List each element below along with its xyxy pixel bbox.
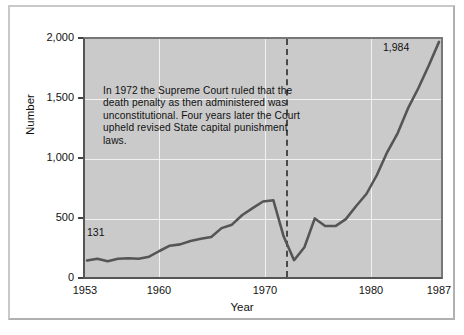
chart-frame: 131 1,984 In 1972 the Supreme Court rule… xyxy=(8,5,455,320)
y-tick-label-500: 500 xyxy=(30,212,74,223)
y-tick-mark-1500 xyxy=(78,97,83,99)
y-tick-label-1000: 1,000 xyxy=(30,152,74,163)
x-tick-label-1980: 1980 xyxy=(348,284,394,296)
y-tick-mark-0 xyxy=(78,277,83,279)
x-tick-label-1987: 1987 xyxy=(416,284,462,296)
x-axis-title: Year xyxy=(10,301,464,313)
x-tick-label-1953: 1953 xyxy=(62,284,108,296)
y-tick-mark-2000 xyxy=(78,37,83,39)
y-tick-mark-1000 xyxy=(78,157,83,159)
figure-container: 131 1,984 In 1972 the Supreme Court rule… xyxy=(0,0,464,335)
y-tick-label-0: 0 xyxy=(30,272,74,283)
axis-labels-layer: 2,000 1,500 1,000 500 0 1953 1960 1970 1… xyxy=(10,7,464,335)
y-tick-label-1500: 1,500 xyxy=(30,92,74,103)
x-tick-label-1960: 1960 xyxy=(136,284,182,296)
y-tick-mark-500 xyxy=(78,217,83,219)
x-tick-label-1970: 1970 xyxy=(242,284,288,296)
y-axis-title: Number xyxy=(24,94,36,135)
y-tick-label-2000: 2,000 xyxy=(30,32,74,43)
